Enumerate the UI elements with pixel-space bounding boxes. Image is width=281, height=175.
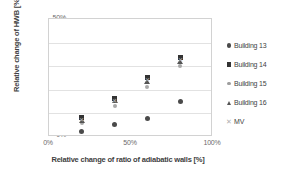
data-point: ✕ [79, 118, 84, 123]
gridline-40 [49, 43, 211, 44]
legend-item-building-16[interactable]: Building 16 [224, 93, 281, 112]
legend-label: Building 14 [234, 61, 266, 68]
legend-label: Building 16 [234, 99, 266, 106]
data-point [145, 116, 150, 121]
legend-item-building-15[interactable]: Building 15 [224, 74, 281, 93]
scatter-chart: Relative change of HWB [%] Relative chan… [0, 0, 281, 175]
data-point [112, 122, 117, 127]
triangle-marker-icon [224, 101, 234, 105]
x-marker-icon: ✕ [224, 118, 234, 125]
circle-marker-icon [224, 43, 234, 48]
data-point [178, 99, 183, 104]
y-axis-title: Relative change of HWB [%] [12, 0, 21, 105]
gridline-30 [49, 66, 211, 67]
plot-area: ✕✕✕✕ [48, 18, 212, 136]
data-point: ✕ [178, 58, 183, 63]
data-point: ✕ [145, 78, 150, 83]
data-point: ✕ [112, 99, 117, 104]
legend-label: Building 15 [234, 80, 266, 87]
legend-label: Building 13 [234, 42, 266, 49]
gridline-20 [49, 90, 211, 91]
legend-label: MV [234, 118, 244, 125]
x-tick-label: 100% [192, 139, 232, 146]
legend-item-building-13[interactable]: Building 13 [224, 36, 281, 55]
x-tick-label: 0% [28, 139, 68, 146]
gridline-10 [49, 113, 211, 114]
x-axis-title: Relative change of ratio of adiabatic wa… [28, 155, 228, 164]
chart-legend: Building 13 Building 14 Building 15 Buil… [224, 36, 281, 131]
x-tick-label: 50% [110, 139, 150, 146]
legend-item-mv[interactable]: ✕ MV [224, 112, 281, 131]
data-point [79, 129, 84, 134]
legend-item-building-14[interactable]: Building 14 [224, 55, 281, 74]
square-marker-icon [224, 62, 234, 67]
diamond-marker-icon [224, 82, 234, 86]
data-point [113, 104, 117, 108]
